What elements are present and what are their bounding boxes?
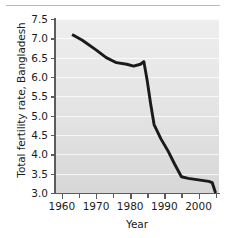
data-line-svg (55, 19, 219, 193)
y-tick-mark (51, 193, 55, 194)
y-tick-mark (51, 96, 55, 97)
y-tick-mark (51, 135, 55, 136)
x-axis-label: Year (55, 218, 219, 230)
y-tick-label: 7.5 (31, 13, 48, 25)
x-tick-mark-minor (79, 194, 80, 198)
x-tick-label: 1960 (48, 200, 75, 212)
y-tick-label: 3.5 (31, 168, 48, 180)
y-tick-label: 3.0 (31, 187, 48, 199)
x-tick-mark (164, 194, 165, 199)
y-tick-label: 4.5 (31, 129, 48, 141)
y-tick-label: 4.0 (31, 148, 48, 160)
y-tick-mark (51, 58, 55, 59)
x-tick-mark (62, 194, 63, 199)
y-tick-mark (51, 77, 55, 78)
x-tick-label: 2000 (185, 200, 212, 212)
x-tick-mark (199, 194, 200, 199)
y-tick-mark (51, 174, 55, 175)
x-tick-mark (130, 194, 131, 199)
x-tick-mark-minor (181, 194, 182, 198)
y-tick-label: 5.5 (31, 90, 48, 102)
y-tick-mark (51, 19, 55, 20)
series-line-bangladesh-fertility (72, 34, 216, 193)
y-tick-mark (51, 116, 55, 117)
chart-figure: Total fertility rate, Bangladesh 7.57.06… (0, 0, 226, 238)
x-tick-label: 1970 (83, 200, 110, 212)
x-tick-mark (96, 194, 97, 199)
x-tick-mark-minor (147, 194, 148, 198)
y-tick-mark (51, 154, 55, 155)
y-tick-label: 7.0 (31, 32, 48, 44)
x-tick-label: 1980 (117, 200, 144, 212)
x-tick-label: 1990 (151, 200, 178, 212)
y-tick-label: 6.0 (31, 71, 48, 83)
y-tick-label: 6.5 (31, 52, 48, 64)
x-tick-mark-minor (113, 194, 114, 198)
y-tick-mark (51, 38, 55, 39)
plot-area (55, 19, 219, 193)
x-tick-mark-minor (216, 194, 217, 198)
y-tick-label: 5.0 (31, 110, 48, 122)
y-axis-ticks: 7.57.06.56.05.55.04.54.03.53.0 (0, 0, 55, 238)
